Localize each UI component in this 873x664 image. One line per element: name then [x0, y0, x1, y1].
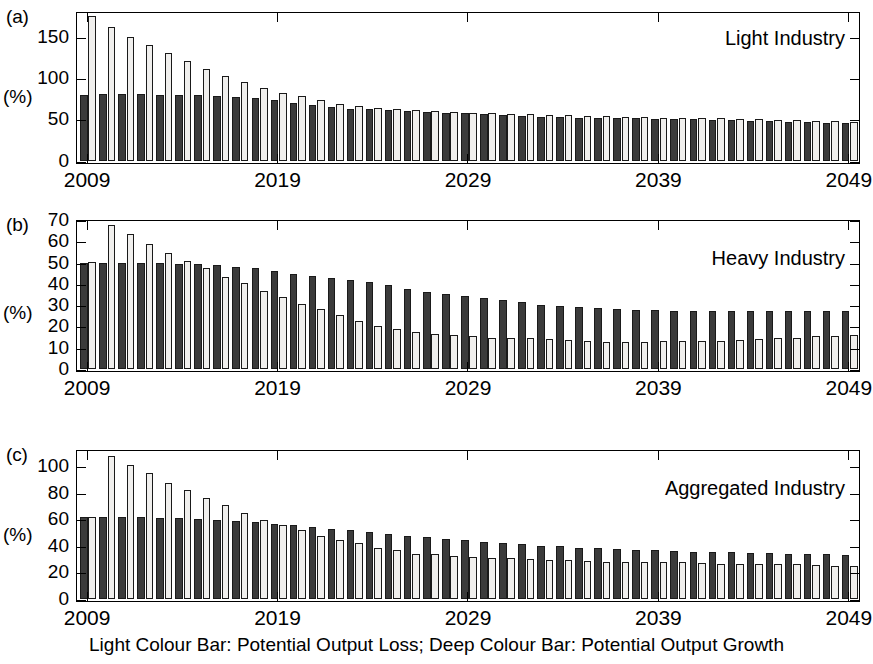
bar-growth: [499, 543, 507, 599]
x-tick-mark-top: [658, 451, 659, 460]
bar-loss: [469, 113, 477, 162]
bar-loss: [736, 340, 744, 370]
x-tick-label: 2019: [254, 606, 301, 630]
bar-loss: [717, 118, 725, 161]
bar-loss: [260, 291, 268, 370]
bar-growth: [632, 310, 640, 370]
bar-loss: [298, 304, 306, 370]
bar-loss: [698, 563, 706, 600]
bar-growth: [423, 537, 431, 599]
bar-loss: [355, 543, 363, 599]
bar-growth: [213, 96, 221, 161]
bar-loss: [184, 490, 192, 599]
x-tick-mark: [467, 362, 468, 371]
plot-title-a: Light Industry: [725, 27, 845, 50]
y-tick-mark-right: [850, 547, 859, 548]
bar-loss: [850, 566, 858, 599]
y-tick-mark-right: [850, 285, 859, 286]
y-tick-label: 10: [48, 337, 69, 359]
bar-loss: [279, 297, 287, 369]
figure-caption: Light Colour Bar: Potential Output Loss;…: [0, 634, 873, 656]
bar-growth: [118, 517, 126, 599]
bar-growth: [271, 524, 279, 600]
y-tick-mark-right: [850, 162, 859, 163]
x-tick-mark-top: [658, 13, 659, 22]
bar-loss: [88, 517, 96, 599]
bar-loss: [431, 111, 439, 161]
bar-loss: [717, 564, 725, 600]
bar-growth: [99, 94, 107, 161]
figure-potential-output: (a) (%) Light Industry 05010015020092019…: [0, 0, 873, 664]
y-tick-mark-right: [850, 467, 859, 468]
plot-title-b: Heavy Industry: [712, 247, 845, 270]
bar-loss: [565, 340, 573, 370]
bar-growth: [328, 529, 336, 599]
bar-loss: [222, 505, 230, 599]
x-tick-mark-top: [87, 221, 88, 230]
bar-growth: [518, 544, 526, 599]
y-tick-mark: [77, 547, 86, 548]
bar-loss: [222, 76, 230, 161]
bar-growth: [175, 518, 183, 599]
y-tick-mark-right: [850, 79, 859, 80]
panel-tag-b: (b): [6, 214, 29, 236]
plot-area-a: Light Industry: [76, 12, 860, 164]
y-tick-mark: [77, 494, 86, 495]
y-tick-mark-right: [850, 264, 859, 265]
bar-loss: [698, 341, 706, 370]
y-tick-label: 150: [37, 26, 69, 48]
bar-loss: [336, 540, 344, 600]
bar-growth: [252, 98, 260, 162]
bar-loss: [488, 113, 496, 161]
bar-growth: [309, 527, 317, 599]
bar-growth: [518, 116, 526, 161]
bar-growth: [385, 285, 393, 369]
bar-loss: [527, 338, 535, 370]
bar-loss: [450, 112, 458, 162]
bar-growth: [252, 522, 260, 599]
bar-growth: [175, 95, 183, 161]
bar-growth: [613, 309, 621, 370]
bar-growth: [575, 307, 583, 370]
bar-growth: [194, 95, 202, 161]
bar-loss: [717, 341, 725, 370]
y-axis-unit-c: (%): [3, 524, 33, 546]
bar-growth: [404, 111, 412, 161]
y-tick-mark: [77, 221, 86, 222]
bar-loss: [88, 262, 96, 369]
bar-loss: [108, 27, 116, 162]
bar-loss: [736, 119, 744, 161]
y-tick-label: 100: [37, 67, 69, 89]
bar-growth: [766, 553, 774, 600]
bar-loss: [260, 520, 268, 600]
bar-loss: [88, 16, 96, 161]
bar-loss: [108, 456, 116, 599]
bar-loss: [660, 118, 668, 162]
y-tick-label: 80: [48, 482, 69, 504]
bar-growth: [290, 274, 298, 370]
bar-loss: [736, 564, 744, 600]
bar-growth: [670, 311, 678, 369]
bar-loss: [755, 564, 763, 600]
bar-growth: [823, 123, 831, 162]
bar-growth: [80, 517, 88, 599]
y-tick-mark: [77, 600, 86, 601]
y-tick-mark-right: [850, 573, 859, 574]
bar-growth: [328, 107, 336, 162]
bar-loss: [584, 561, 592, 600]
y-tick-mark-right: [850, 494, 859, 495]
bar-loss: [241, 283, 249, 369]
bar-loss: [507, 338, 515, 370]
bar-growth: [785, 122, 793, 162]
x-tick-mark-top: [848, 13, 849, 22]
bar-loss: [622, 562, 630, 600]
panel-light-industry: (a) (%) Light Industry 05010015020092019…: [0, 0, 873, 200]
bar-growth: [728, 120, 736, 161]
bar-growth: [766, 121, 774, 162]
x-tick-label: 2039: [635, 168, 682, 192]
x-tick-mark: [848, 592, 849, 601]
bar-loss: [812, 336, 820, 369]
y-tick-mark: [77, 327, 86, 328]
x-tick-mark-top: [277, 221, 278, 230]
bar-loss: [165, 253, 173, 370]
